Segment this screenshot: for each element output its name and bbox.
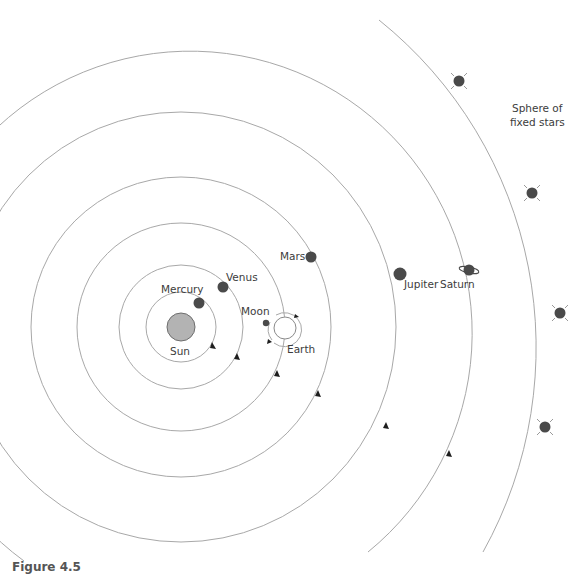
star-icon bbox=[524, 185, 540, 201]
saturn-orbit bbox=[0, 51, 472, 561]
sun-label: Sun bbox=[170, 345, 190, 357]
mercury-arrow-icon bbox=[210, 342, 216, 349]
earth-system bbox=[263, 313, 302, 347]
earth-label: Earth bbox=[287, 343, 315, 355]
star-icon bbox=[537, 419, 553, 435]
star-icon bbox=[552, 305, 568, 321]
moon-orbit-left bbox=[268, 322, 272, 340]
jupiter-label: Jupiter bbox=[403, 278, 439, 290]
moon-label: Moon bbox=[241, 305, 270, 317]
venus-label: Venus bbox=[226, 271, 258, 283]
figure-caption: Figure 4.5 bbox=[12, 560, 81, 574]
jupiter-orbit bbox=[0, 112, 396, 542]
earth-planet bbox=[274, 317, 296, 339]
saturn-label: Saturn bbox=[440, 278, 475, 290]
saturn-planet bbox=[459, 265, 480, 276]
jupiter-arrow-icon bbox=[383, 422, 389, 429]
moon bbox=[263, 320, 269, 326]
mercury-label: Mercury bbox=[161, 283, 204, 295]
mercury-planet bbox=[194, 298, 205, 309]
sphere-label-line1: Sphere of bbox=[512, 102, 563, 114]
star-icon bbox=[451, 73, 467, 89]
saturn-arrow-icon bbox=[446, 450, 452, 457]
orbits bbox=[0, 20, 536, 561]
sun bbox=[167, 313, 195, 341]
mars-label: Mars bbox=[280, 250, 305, 262]
moon-arrow-top-icon bbox=[294, 314, 299, 318]
sphere-label-line2: fixed stars bbox=[510, 116, 565, 128]
orbit-direction-arrows bbox=[210, 342, 452, 457]
venus-arrow-icon bbox=[234, 353, 240, 360]
venus-planet bbox=[218, 282, 229, 293]
mars-planet bbox=[306, 252, 317, 263]
